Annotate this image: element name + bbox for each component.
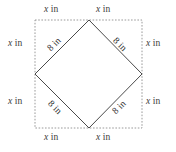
side-label-top-right: x in	[96, 5, 110, 15]
side-label-unit: in	[103, 4, 111, 14]
side-label-unit: in	[153, 38, 161, 48]
side-label-top-left: x in	[44, 5, 58, 15]
side-label-bottom-left: x in	[44, 133, 58, 143]
side-label-unit: in	[153, 96, 161, 106]
side-label-unit: in	[103, 132, 111, 142]
side-label-unit: in	[51, 4, 59, 14]
side-label-right-lower: x in	[146, 97, 160, 107]
side-label-unit: in	[51, 132, 59, 142]
side-label-left-lower: x in	[8, 97, 22, 107]
side-label-unit: in	[15, 38, 23, 48]
figure-canvas	[0, 0, 176, 152]
side-label-bottom-right: x in	[96, 133, 110, 143]
side-label-left-upper: x in	[8, 39, 22, 49]
side-label-unit: in	[15, 96, 23, 106]
geometry-diagram: x in x in x in x in x in x in x in x in …	[0, 0, 176, 152]
side-label-right-upper: x in	[146, 39, 160, 49]
